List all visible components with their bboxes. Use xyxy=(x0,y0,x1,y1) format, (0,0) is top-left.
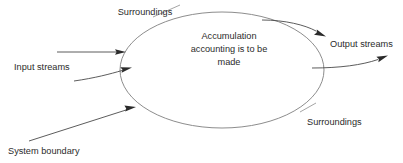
input-stream-upper-arrow xyxy=(57,49,126,55)
input-stream-lower-line xyxy=(74,71,122,82)
diagram-canvas: Surroundings Input streams Output stream… xyxy=(0,0,403,163)
output-stream-upper-line xyxy=(262,20,316,31)
system-label-line-3: made xyxy=(218,57,241,67)
system-label-line-2: accounting is to be xyxy=(191,44,268,54)
system-boundary-pointer-arrowhead xyxy=(124,106,136,112)
system-label-group: Accumulation accounting is to be made xyxy=(191,31,268,67)
surroundings-bottom-leader xyxy=(300,103,316,112)
input-stream-lower-arrowhead xyxy=(120,67,132,73)
system-boundary-ellipse xyxy=(120,12,324,128)
system-boundary-pointer xyxy=(29,106,136,141)
input-stream-lower-arrow xyxy=(74,67,132,81)
label-system-boundary: System boundary xyxy=(8,146,80,156)
label-output-streams: Output streams xyxy=(330,39,393,49)
label-input-streams: Input streams xyxy=(14,62,70,72)
output-stream-upper-arrow xyxy=(262,20,326,37)
label-surroundings-bottom: Surroundings xyxy=(307,117,362,127)
system-boundary-pointer-line xyxy=(29,110,126,141)
label-surroundings-top: Surroundings xyxy=(118,7,173,17)
system-label-line-1: Accumulation xyxy=(201,31,256,41)
diagram-svg: Surroundings Input streams Output stream… xyxy=(0,0,403,163)
output-stream-lower-arrowhead xyxy=(376,56,388,63)
output-stream-lower-line xyxy=(312,60,378,69)
